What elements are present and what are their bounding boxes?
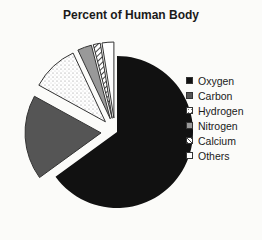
legend-item-hydrogen: Hydrogen [186, 103, 244, 118]
legend-item-nitrogen: Nitrogen [186, 118, 244, 133]
hydrogen-swatch-icon [186, 107, 193, 114]
others-swatch-icon [186, 152, 193, 159]
carbon-swatch-icon [186, 92, 193, 99]
legend: Oxygen Carbon Hydrogen Nitrogen Calcium … [186, 73, 244, 163]
calcium-swatch-icon [186, 137, 193, 144]
nitrogen-swatch-icon [186, 122, 193, 129]
legend-item-others: Others [186, 148, 244, 163]
oxygen-swatch-icon [186, 77, 193, 84]
legend-item-calcium: Calcium [186, 133, 244, 148]
legend-item-oxygen: Oxygen [186, 73, 244, 88]
legend-item-carbon: Carbon [186, 88, 244, 103]
